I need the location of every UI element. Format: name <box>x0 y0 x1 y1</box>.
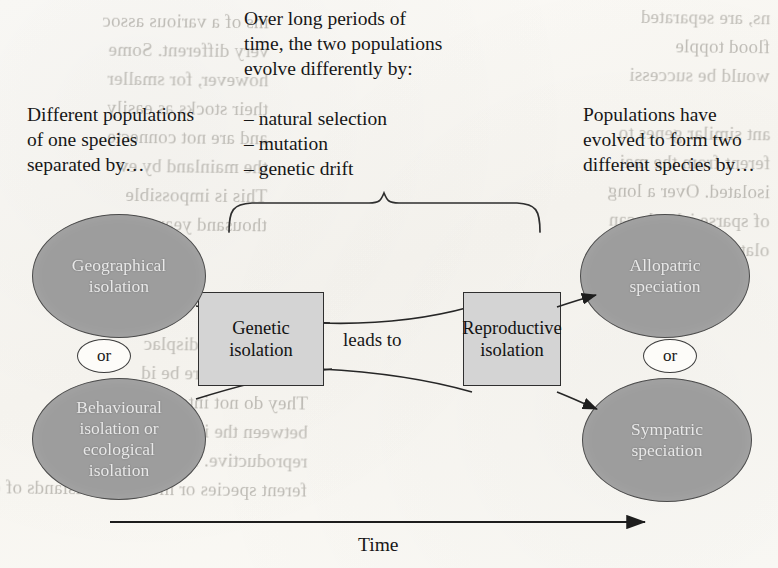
connector-label-leads-to: leads to <box>343 327 402 352</box>
caption-center-bullet-1: – mutation <box>244 131 328 156</box>
caption-right: Populations have evolved to form two dif… <box>583 102 755 177</box>
caption-left: Different populations of one species sep… <box>27 102 194 177</box>
caption-center-intro: Over long periods of time, the two popul… <box>244 6 442 81</box>
caption-center-bullet-0: – natural selection <box>244 106 387 131</box>
caption-center-bullet-2: – genetic drift <box>244 156 353 181</box>
axis-label-time: Time <box>358 532 398 557</box>
connector-lines-over <box>0 0 778 568</box>
figure-canvas: ns, are separated flood topple would be … <box>0 0 778 568</box>
